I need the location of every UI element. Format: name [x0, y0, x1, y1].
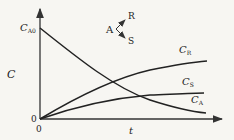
x-origin-label: 0	[36, 124, 42, 134]
label-cs: CS	[182, 76, 194, 88]
x-axis-label: t	[129, 125, 134, 136]
product-s-label: S	[128, 36, 134, 46]
product-r-label: R	[128, 11, 135, 21]
reactant-label: A	[105, 24, 114, 35]
y-origin-label: 0	[31, 114, 37, 124]
initial-value-label: CA0	[20, 22, 36, 34]
arrow-to-s-icon	[116, 29, 125, 38]
label-ca: CA	[191, 94, 204, 106]
label-cr: CR	[179, 44, 192, 56]
concentration-time-chart: C t 0 0 CA0 CR CS CA A R S	[0, 0, 234, 140]
curve-ca	[40, 28, 206, 113]
reaction-scheme: A R S	[105, 11, 135, 46]
curve-cs	[40, 93, 204, 119]
arrow-to-r-icon	[116, 20, 125, 29]
y-axis-label: C	[7, 68, 16, 81]
